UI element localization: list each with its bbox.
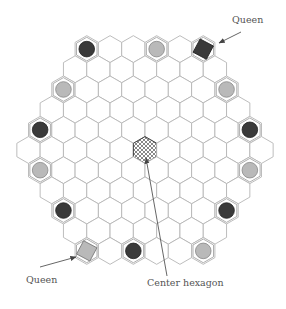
light-disc-piece	[219, 82, 235, 98]
queen-bottom-label: Queen	[26, 275, 57, 285]
dark-disc-piece	[79, 41, 95, 57]
dark-disc-piece	[242, 122, 258, 138]
queen-top-label: Queen	[232, 15, 263, 25]
hex-board-diagram	[0, 0, 286, 309]
light-disc-piece	[195, 243, 211, 259]
light-disc-piece	[32, 162, 48, 178]
light-disc-piece	[56, 82, 72, 98]
queen-top-arrow	[219, 32, 241, 43]
dark-disc-piece	[219, 203, 235, 219]
dark-disc-piece	[56, 203, 72, 219]
center-hexagon-label: Center hexagon	[147, 278, 224, 288]
queen-bottom-arrow	[40, 257, 76, 267]
light-disc-piece	[149, 41, 165, 57]
dark-disc-piece	[126, 243, 142, 259]
light-disc-piece	[242, 162, 258, 178]
dark-disc-piece	[32, 122, 48, 138]
hex-grid	[17, 36, 273, 265]
